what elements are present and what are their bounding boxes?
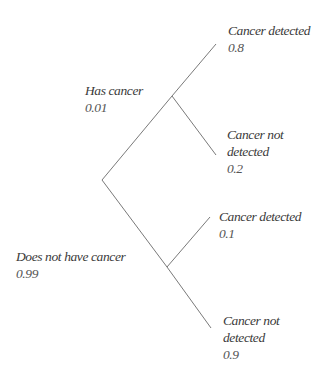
edge-no-cancer-to-not-detected (167, 267, 211, 328)
leaf-label-line2: detected (227, 143, 283, 160)
tree-edges (0, 0, 331, 384)
leaf-probability: 0.9 (223, 346, 279, 363)
leaf-label: Cancer detected (219, 208, 301, 225)
leaf-probability: 0.2 (227, 160, 283, 177)
node-probability: 0.01 (85, 99, 143, 116)
leaf-label: Cancer detected (228, 22, 310, 39)
edge-has-cancer-to-detected (172, 44, 216, 96)
leaf-no-cancer-detected: Cancer detected 0.1 (219, 208, 301, 242)
leaf-probability: 0.8 (228, 39, 310, 56)
node-probability: 0.99 (16, 265, 125, 282)
node-has-cancer: Has cancer 0.01 (85, 82, 143, 116)
edge-no-cancer-to-detected (167, 217, 210, 267)
leaf-label-line1: Cancer not (223, 312, 279, 329)
leaf-label-line2: detected (223, 329, 279, 346)
node-label: Does not have cancer (16, 248, 125, 265)
edge-has-cancer-to-not-detected (172, 96, 216, 155)
node-no-cancer: Does not have cancer 0.99 (16, 248, 125, 282)
leaf-label-line1: Cancer not (227, 126, 283, 143)
leaf-no-cancer-not-detected: Cancer not detected 0.9 (223, 312, 279, 363)
leaf-has-cancer-detected: Cancer detected 0.8 (228, 22, 310, 56)
leaf-probability: 0.1 (219, 225, 301, 242)
leaf-has-cancer-not-detected: Cancer not detected 0.2 (227, 126, 283, 177)
node-label: Has cancer (85, 82, 143, 99)
